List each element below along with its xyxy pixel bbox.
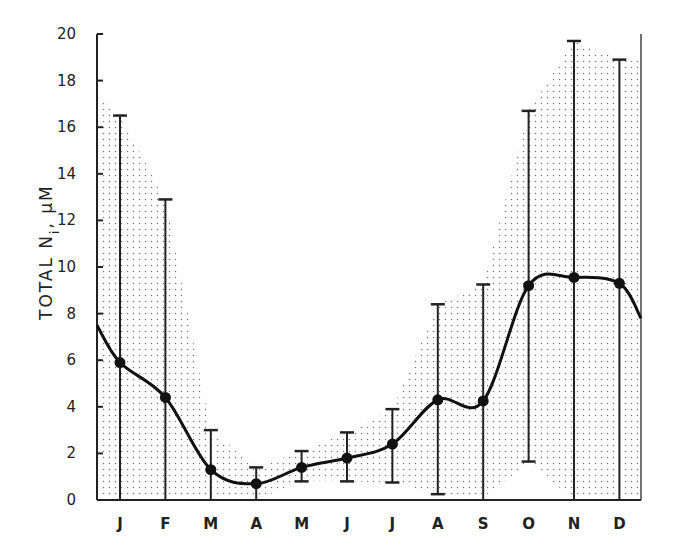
y-tick-label: 10 <box>57 258 76 276</box>
data-point <box>614 278 625 289</box>
y-tick-label: 12 <box>57 211 76 229</box>
y-tick-label: 8 <box>66 305 76 323</box>
x-tick-label: J <box>116 515 123 533</box>
x-tick-label: M <box>203 515 218 533</box>
data-point <box>296 462 307 473</box>
x-tick-label: A <box>250 515 262 533</box>
data-point <box>432 394 443 405</box>
chart: 02468101214161820JFMAMJJASOND TOTAL Ni, … <box>0 0 673 552</box>
x-tick-label: N <box>568 515 581 533</box>
x-tick-label: J <box>343 515 350 533</box>
y-tick-label: 2 <box>66 444 76 462</box>
x-tick-label: J <box>389 515 396 533</box>
data-point <box>569 272 580 283</box>
x-tick-label: O <box>522 515 535 533</box>
data-point <box>478 395 489 406</box>
x-tick-label: D <box>613 515 625 533</box>
stippled-range-area <box>97 41 641 500</box>
x-tick-label: A <box>432 515 444 533</box>
y-tick-label: 6 <box>66 351 76 369</box>
x-tick-label: F <box>160 515 170 533</box>
y-tick-label: 18 <box>57 72 76 90</box>
y-tick-label: 4 <box>66 398 76 416</box>
data-point <box>205 464 216 475</box>
data-point <box>523 280 534 291</box>
data-point <box>160 392 171 403</box>
data-point <box>251 478 262 489</box>
stipple-region <box>97 41 641 500</box>
y-axis-label: TOTAL Ni, μM <box>36 184 62 321</box>
data-point <box>387 439 398 450</box>
x-tick-label: S <box>478 515 489 533</box>
y-tick-label: 20 <box>57 25 76 43</box>
data-point <box>115 357 126 368</box>
x-tick-label: M <box>294 515 309 533</box>
y-tick-label: 16 <box>57 118 76 136</box>
y-tick-label: 0 <box>66 491 76 509</box>
y-tick-label: 14 <box>57 165 76 183</box>
data-point <box>342 453 353 464</box>
